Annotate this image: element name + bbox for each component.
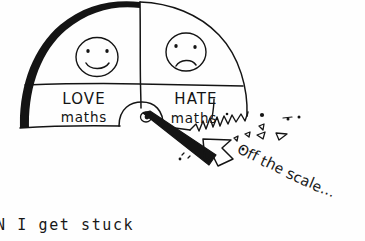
cartoon-illustration: LOVE maths HATE maths <box>0 0 365 241</box>
gauge-baseline <box>20 126 120 128</box>
needle-pivot-dot <box>145 115 150 120</box>
scale-note-annotation: Off the scale... <box>235 141 362 207</box>
needle-motion-marks <box>179 153 190 160</box>
smiley-face-icon <box>76 38 118 77</box>
debris-fragments <box>226 113 301 151</box>
gauge-divider-vertical <box>140 2 141 108</box>
cartoon-stage: LOVE maths HATE maths <box>0 0 365 241</box>
left-panel-label-line2: maths <box>61 109 107 125</box>
gauge-divider-horizontal <box>25 84 243 86</box>
bottom-caption: N I get stuck <box>0 216 134 234</box>
right-panel-label-line1: HATE <box>174 90 217 108</box>
sad-face-icon <box>166 33 206 71</box>
scale-note-text: Off the scale... <box>235 141 337 201</box>
left-panel-label-line1: LOVE <box>62 90 106 108</box>
